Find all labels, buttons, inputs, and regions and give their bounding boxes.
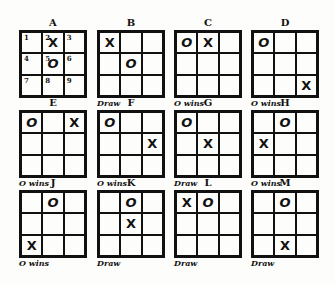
- grid-cell: [176, 213, 197, 234]
- grid-cell: [142, 235, 163, 256]
- grid-cell: X: [142, 133, 163, 154]
- grid-cell: [176, 155, 197, 176]
- grid-cell: 2X: [42, 32, 63, 53]
- board-grid: OX: [97, 110, 165, 178]
- grid-cell: [274, 213, 295, 234]
- board-label: A: [19, 18, 87, 28]
- o-mark-icon: O: [47, 195, 58, 210]
- grid-cell: 5O: [42, 53, 63, 74]
- grid-cell: [274, 32, 295, 53]
- board-grid: XO: [97, 30, 165, 98]
- grid-cell: [176, 133, 197, 154]
- grid-cell: [42, 213, 63, 234]
- board-grid: OX: [174, 30, 242, 98]
- board-grid: OX: [251, 30, 319, 98]
- board-label: G: [174, 98, 242, 108]
- grid-cell: [253, 213, 274, 234]
- board-grid: OX: [251, 190, 319, 258]
- grid-cell: O: [176, 112, 197, 133]
- grid-cell: O: [21, 112, 42, 133]
- grid-cell: [176, 75, 197, 96]
- o-mark-icon: O: [125, 56, 136, 71]
- cell-number: 7: [24, 76, 29, 85]
- o-mark-icon: O: [181, 115, 192, 130]
- board-label: H: [251, 98, 319, 108]
- board-result: Draw: [174, 259, 197, 268]
- grid-cell: [142, 53, 163, 74]
- x-mark-icon: X: [182, 195, 192, 210]
- grid-cell: [120, 75, 141, 96]
- grid-cell: [99, 75, 120, 96]
- grid-cell: [64, 192, 85, 213]
- o-mark-icon: O: [279, 195, 290, 210]
- grid-cell: X: [99, 32, 120, 53]
- x-mark-icon: X: [105, 35, 115, 50]
- grid-cell: O: [120, 192, 141, 213]
- board-label: L: [174, 178, 242, 188]
- board-label: D: [251, 18, 319, 28]
- grid-cell: X: [176, 192, 197, 213]
- grid-cell: 7: [21, 75, 42, 96]
- o-mark-icon: O: [104, 115, 115, 130]
- grid-cell: 4: [21, 53, 42, 74]
- grid-cell: [219, 112, 240, 133]
- grid-cell: [219, 53, 240, 74]
- x-mark-icon: X: [259, 136, 269, 151]
- grid-cell: 8: [42, 75, 63, 96]
- x-mark-icon: X: [280, 238, 290, 253]
- grid-cell: O: [42, 192, 63, 213]
- grid-cell: [21, 192, 42, 213]
- grid-cell: [253, 155, 274, 176]
- grid-cell: [64, 213, 85, 234]
- grid-cell: [142, 213, 163, 234]
- grid-cell: [64, 155, 85, 176]
- board-grid: XO: [174, 190, 242, 258]
- cell-number: 8: [45, 76, 50, 85]
- board-result: O wins: [19, 259, 49, 268]
- board-label: C: [174, 18, 242, 28]
- grid-cell: 3: [64, 32, 85, 53]
- x-mark-icon: X: [27, 238, 37, 253]
- grid-cell: [219, 235, 240, 256]
- grid-cell: [21, 213, 42, 234]
- x-mark-icon: X: [126, 216, 136, 231]
- grid-cell: [197, 213, 218, 234]
- grid-cell: [99, 155, 120, 176]
- o-mark-icon: O: [26, 115, 37, 130]
- board-grid: OX: [174, 110, 242, 178]
- grid-cell: [142, 155, 163, 176]
- grid-cell: [253, 112, 274, 133]
- board-label: J: [19, 178, 87, 188]
- grid-cell: [99, 192, 120, 213]
- grid-cell: [197, 112, 218, 133]
- board-label: M: [251, 178, 319, 188]
- grid-cell: [120, 32, 141, 53]
- board-result: Draw: [251, 259, 274, 268]
- o-mark-icon: O: [125, 195, 136, 210]
- grid-cell: [120, 235, 141, 256]
- o-mark-icon: O: [258, 35, 269, 50]
- board-label: E: [19, 98, 87, 108]
- grid-cell: [197, 235, 218, 256]
- grid-cell: [142, 112, 163, 133]
- grid-cell: [99, 53, 120, 74]
- board-grid: OX: [19, 110, 87, 178]
- grid-cell: [219, 213, 240, 234]
- grid-cell: [296, 235, 317, 256]
- grid-cell: X: [197, 133, 218, 154]
- grid-cell: O: [120, 53, 141, 74]
- grid-cell: [99, 213, 120, 234]
- board-result: Draw: [97, 259, 120, 268]
- grid-cell: [120, 133, 141, 154]
- cell-number: 9: [67, 76, 72, 85]
- grid-cell: [176, 53, 197, 74]
- grid-cell: [253, 192, 274, 213]
- board-label: B: [97, 18, 165, 28]
- grid-cell: 1: [21, 32, 42, 53]
- grid-cell: [274, 133, 295, 154]
- grid-cell: 6: [64, 53, 85, 74]
- grid-cell: [64, 133, 85, 154]
- grid-cell: [274, 75, 295, 96]
- x-mark-icon: X: [203, 35, 213, 50]
- grid-cell: [296, 133, 317, 154]
